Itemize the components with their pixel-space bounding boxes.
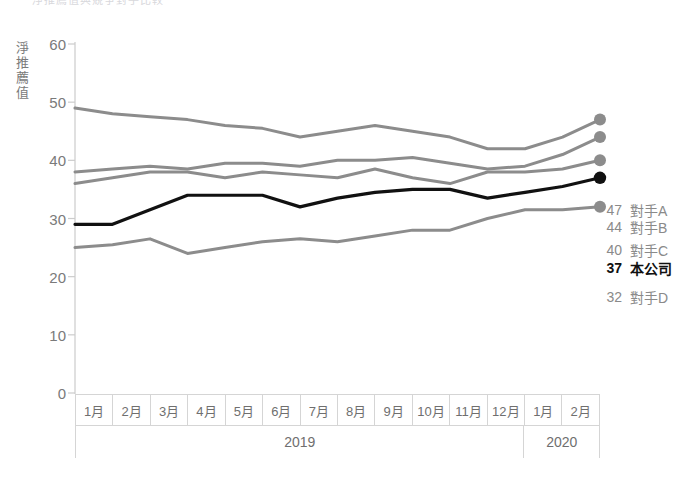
nps-line-chart: 淨推薦值與競爭對手比較 淨 推 薦 值 0102030405060 47對手A4…: [0, 0, 699, 477]
legend-item-本公司[interactable]: 37本公司: [598, 259, 672, 277]
x-axis-month-row: 1月2月3月4月5月6月7月8月9月10月11月12月1月2月: [75, 394, 600, 425]
series-end-dot-對手A: [594, 114, 606, 126]
series-end-dot-對手C: [594, 154, 606, 166]
x-axis-month-cell: 2月: [112, 395, 149, 425]
series-line-對手A: [75, 108, 600, 149]
series-line-對手B: [75, 137, 600, 172]
x-axis-month-cell: 1月: [75, 395, 112, 425]
legend-value: 47: [598, 202, 622, 218]
legend-label: 對手B: [630, 217, 667, 237]
legend-item-對手A[interactable]: 47對手A: [598, 201, 667, 219]
series-end-dot-對手B: [594, 131, 606, 143]
legend-label: 本公司: [630, 258, 672, 278]
legend-value: 32: [598, 289, 622, 305]
series-line-對手D: [75, 207, 600, 254]
series-end-dot-本公司: [594, 172, 606, 184]
x-axis-month-cell: 11月: [449, 395, 486, 425]
legend-item-對手B[interactable]: 44對手B: [598, 218, 667, 236]
x-axis-year-row: 20192020: [75, 425, 600, 458]
x-axis-month-cell: 4月: [187, 395, 224, 425]
x-axis-year-cell: 2020: [523, 426, 600, 458]
x-axis-month-cell: 1月: [524, 395, 561, 425]
x-axis-month-cell: 9月: [374, 395, 411, 425]
x-axis-month-cell: 8月: [337, 395, 374, 425]
legend-value: 40: [598, 242, 622, 258]
x-axis-month-cell: 6月: [262, 395, 299, 425]
series-line-對手C: [75, 160, 600, 183]
x-axis-month-cell: 10月: [412, 395, 449, 425]
legend-item-對手C[interactable]: 40對手C: [598, 241, 668, 259]
x-axis-month-cell: 12月: [487, 395, 524, 425]
x-axis-month-cell: 3月: [150, 395, 187, 425]
x-axis-month-cell: 5月: [225, 395, 262, 425]
legend-value: 37: [598, 260, 622, 276]
x-axis-year-cell: 2019: [75, 426, 523, 458]
legend-item-對手D[interactable]: 32對手D: [598, 288, 668, 306]
x-axis-month-cell: 2月: [561, 395, 599, 425]
legend-value: 44: [598, 219, 622, 235]
legend-label: 對手D: [630, 287, 668, 307]
x-axis-month-cell: 7月: [300, 395, 337, 425]
series-line-本公司: [75, 178, 600, 225]
x-axis-table: 1月2月3月4月5月6月7月8月9月10月11月12月1月2月 20192020: [75, 394, 600, 456]
